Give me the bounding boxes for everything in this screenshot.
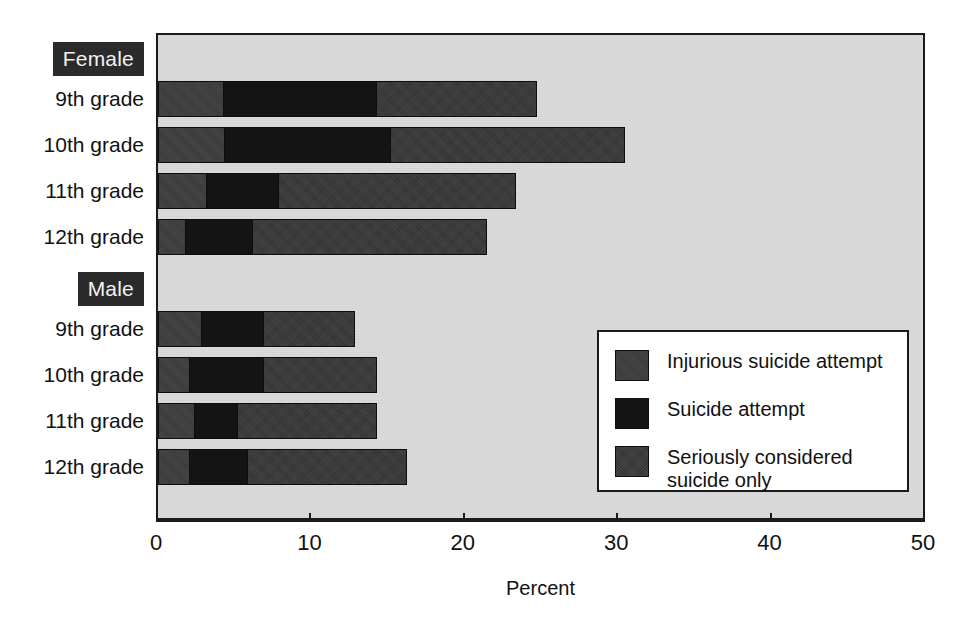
legend-label-1: Injurious suicide attempt <box>667 350 883 373</box>
legend-swatch-3 <box>615 446 649 477</box>
bar-segment-male-11th-injurious <box>158 403 195 439</box>
legend-item-2: Suicide attempt <box>615 398 805 429</box>
category-label-male-10th: 10th grade <box>44 364 144 385</box>
x-axis-tick-50 <box>923 513 925 522</box>
bar-female-12th <box>158 219 487 255</box>
bar-segment-female-12th-attempt <box>185 219 253 255</box>
x-axis-tick-label-50: 50 <box>911 532 935 554</box>
category-label-male-11th: 11th grade <box>45 410 144 431</box>
bar-segment-male-10th-injurious <box>158 357 190 393</box>
chart-figure: Female 9th grade 10th grade 11th grade 1… <box>0 0 978 623</box>
bar-male-12th <box>158 449 407 485</box>
bar-male-10th <box>158 357 377 393</box>
bar-segment-male-12th-injurious <box>158 449 190 485</box>
bar-female-10th <box>158 127 625 163</box>
x-axis-tick-label-0: 0 <box>150 532 162 554</box>
legend-label-2: Suicide attempt <box>667 398 805 421</box>
category-label-male-9th: 9th grade <box>55 318 144 339</box>
bar-segment-female-10th-considered <box>390 127 625 163</box>
bar-male-9th <box>158 311 355 347</box>
bar-segment-male-9th-attempt <box>201 311 263 347</box>
x-axis-tick-40 <box>770 513 772 522</box>
legend-label-3: Seriously considered suicide only <box>667 446 853 492</box>
bar-segment-male-9th-injurious <box>158 311 202 347</box>
x-axis-title: Percent <box>156 577 925 600</box>
bar-segment-male-10th-attempt <box>189 357 263 393</box>
bar-segment-female-9th-injurious <box>158 81 224 117</box>
x-axis-tick-0 <box>156 513 158 522</box>
legend-swatch-2 <box>615 398 649 429</box>
legend-swatch-1 <box>615 350 649 381</box>
bar-segment-male-11th-attempt <box>194 403 238 439</box>
bar-segment-female-9th-considered <box>376 81 538 117</box>
bar-segment-male-9th-considered <box>263 311 356 347</box>
x-axis-tick-30 <box>616 513 618 522</box>
category-label-female-12th: 12th grade <box>44 226 144 247</box>
bar-segment-male-12th-attempt <box>189 449 248 485</box>
legend-item-3: Seriously considered suicide only <box>615 446 853 492</box>
bar-segment-male-12th-considered <box>247 449 407 485</box>
bar-segment-female-9th-attempt <box>223 81 377 117</box>
bar-female-11th <box>158 173 516 209</box>
group-tag-female: Female <box>53 42 144 76</box>
x-axis-tick-label-30: 30 <box>604 532 628 554</box>
category-label-female-9th: 9th grade <box>55 88 144 109</box>
x-axis-tick-label-40: 40 <box>757 532 781 554</box>
category-label-female-11th: 11th grade <box>45 180 144 201</box>
bar-segment-female-10th-attempt <box>224 127 390 163</box>
bar-male-11th <box>158 403 377 439</box>
bar-segment-female-11th-attempt <box>206 173 279 209</box>
bar-segment-female-12th-considered <box>252 219 487 255</box>
bar-segment-female-11th-injurious <box>158 173 207 209</box>
bar-segment-female-11th-considered <box>278 173 516 209</box>
bar-segment-female-10th-injurious <box>158 127 225 163</box>
bar-segment-female-12th-injurious <box>158 219 186 255</box>
x-axis-tick-10 <box>309 513 311 522</box>
legend: Injurious suicide attemptSuicide attempt… <box>597 330 909 492</box>
bar-segment-male-10th-considered <box>263 357 377 393</box>
bar-segment-male-11th-considered <box>237 403 377 439</box>
category-label-female-10th: 10th grade <box>44 134 144 155</box>
group-tag-male: Male <box>78 272 144 306</box>
x-axis-tick-20 <box>463 513 465 522</box>
legend-item-1: Injurious suicide attempt <box>615 350 883 381</box>
category-axis-labels: Female 9th grade 10th grade 11th grade 1… <box>0 0 156 520</box>
bar-female-9th <box>158 81 537 117</box>
x-axis: 01020304050 <box>156 520 925 523</box>
x-axis-tick-label-10: 10 <box>297 532 321 554</box>
x-axis-tick-label-20: 20 <box>451 532 475 554</box>
category-label-male-12th: 12th grade <box>44 456 144 477</box>
